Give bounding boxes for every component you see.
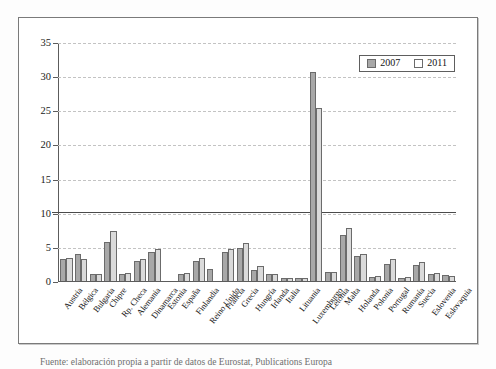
bar-group [441, 43, 456, 281]
bar-group [147, 43, 162, 281]
x-label-cell: Alemania [132, 284, 147, 340]
bar-group [221, 43, 236, 281]
x-label-cell: Eslovenia [426, 284, 441, 340]
y-tick-label-0: 0 [46, 277, 51, 288]
x-label-cell: Eslovaquia [441, 284, 456, 340]
bar-group [191, 43, 206, 281]
bar-group [206, 43, 221, 281]
x-label-cell: Rp. Checa [117, 284, 132, 340]
y-tick-label-10: 10 [41, 209, 52, 220]
plot-wrapper: 05101520253035 AustriaBélgicaBulgariaChi… [19, 18, 477, 343]
y-tick-label-15: 15 [41, 175, 52, 186]
x-label-cell: Chipre [102, 284, 117, 340]
bar-2011 [302, 278, 308, 281]
chart-legend: 2007 2011 [359, 55, 455, 72]
x-label-cell: Holanda [353, 284, 368, 340]
bar-2011 [405, 277, 411, 281]
bar-group [103, 43, 118, 281]
bar-group [353, 43, 368, 281]
bar-2011 [199, 258, 205, 281]
bar-group [250, 43, 265, 281]
bar-2011 [96, 274, 102, 281]
bar-group [162, 43, 177, 281]
legend-item-2007: 2007 [367, 58, 400, 68]
bar-group [368, 43, 383, 281]
y-tick-label-5: 5 [46, 243, 51, 254]
x-label-cell: Letonia [323, 284, 338, 340]
x-label-cell: Bélgica [73, 284, 88, 340]
chart-frame: 05101520253035 AustriaBélgicaBulgariaChi… [18, 17, 478, 344]
bar-2011 [140, 259, 146, 281]
x-axis-labels: AustriaBélgicaBulgariaChipreRp. ChecaAle… [58, 284, 456, 340]
bar-2011 [360, 254, 366, 281]
legend-label-2007: 2007 [380, 58, 400, 68]
bar-group [309, 43, 324, 281]
y-tick-25 [53, 111, 58, 112]
bar-group [118, 43, 133, 281]
bar-group [338, 43, 353, 281]
bar-group [74, 43, 89, 281]
bar-2011 [155, 249, 161, 281]
y-tick-label-35: 35 [41, 38, 52, 49]
plot-area: 05101520253035 [58, 43, 456, 282]
bar-2011 [243, 243, 249, 281]
x-label-cell: Malta [338, 284, 353, 340]
x-label-cell: España [176, 284, 191, 340]
bar-group [280, 43, 295, 281]
legend-label-2011: 2011 [427, 58, 447, 68]
x-label-cell: Estonia [161, 284, 176, 340]
x-label-cell: Rumanía [397, 284, 412, 340]
bar-group [412, 43, 427, 281]
x-label-cell: Irlanda [264, 284, 279, 340]
bar-group [324, 43, 339, 281]
y-tick-10 [53, 214, 58, 215]
x-label-cell: Francia [220, 284, 235, 340]
bar-2011 [346, 228, 352, 281]
bar-group [397, 43, 412, 281]
bar-group [235, 43, 250, 281]
bar-2007 [207, 269, 213, 281]
x-label-cell: Luxemburgo [308, 284, 323, 340]
bar-2011 [449, 276, 455, 281]
figure-caption: Fuente: elaboración propia a partir de d… [40, 356, 460, 369]
bar-2011 [81, 259, 87, 281]
y-tick-label-20: 20 [41, 140, 52, 151]
x-axis-line [58, 281, 456, 282]
bar-2011 [390, 259, 396, 281]
bar-2011 [228, 249, 234, 281]
x-label-cell: Hungría [250, 284, 265, 340]
bar-2011 [331, 272, 337, 281]
bar-group [133, 43, 148, 281]
y-tick-35 [53, 43, 58, 44]
bar-group [382, 43, 397, 281]
y-tick-0 [53, 282, 58, 283]
y-tick-30 [53, 77, 58, 78]
x-label-cell: Portugal [382, 284, 397, 340]
bar-2011 [110, 231, 116, 281]
bar-group [265, 43, 280, 281]
bar-group [427, 43, 442, 281]
x-label-cell: Dinamarca [146, 284, 161, 340]
x-label-cell: Grecia [235, 284, 250, 340]
bar-2011 [287, 278, 293, 281]
x-label-cell: Polonia [367, 284, 382, 340]
y-tick-15 [53, 180, 58, 181]
bar-2011 [375, 276, 381, 281]
bar-2011 [316, 108, 322, 281]
bar-group [88, 43, 103, 281]
bar-2011 [272, 274, 278, 281]
y-tick-5 [53, 248, 58, 249]
bar-2011 [184, 273, 190, 281]
x-label-cell: Italia [279, 284, 294, 340]
x-tick-label: Eslovaquia [444, 286, 474, 321]
bar-group [59, 43, 74, 281]
legend-swatch-2011 [414, 59, 423, 68]
x-label-cell: Austria [58, 284, 73, 340]
x-label-cell: Bulgaria [87, 284, 102, 340]
bar-2011 [434, 273, 440, 281]
bar-2011 [125, 273, 131, 281]
figure-container: 05101520253035 AustriaBélgicaBulgariaChi… [0, 0, 496, 369]
bars-group [59, 43, 456, 281]
x-label-cell: Lituania [294, 284, 309, 340]
x-label-cell: Finlandia [191, 284, 206, 340]
